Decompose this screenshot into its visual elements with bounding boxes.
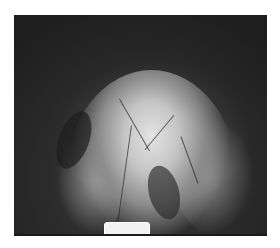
vignette <box>14 15 267 234</box>
endoscopic-image <box>14 15 267 236</box>
